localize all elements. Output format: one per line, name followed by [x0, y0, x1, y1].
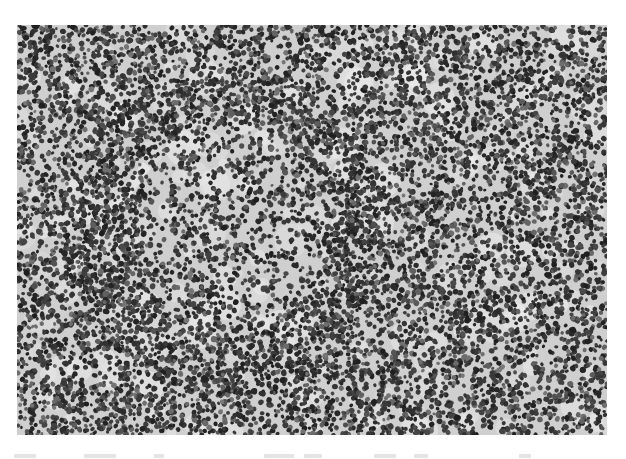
caption-text-fragment — [374, 454, 396, 458]
caption-text-fragment — [84, 454, 116, 458]
tissue-section — [17, 25, 607, 435]
caption-text-fragment — [154, 454, 164, 458]
caption-text-fragment — [414, 454, 428, 458]
figure-caption-cropped — [14, 452, 614, 459]
caption-text-fragment — [519, 454, 531, 458]
figure — [0, 0, 626, 459]
caption-text-fragment — [264, 454, 294, 458]
caption-text-fragment — [14, 454, 36, 458]
micrograph-image — [17, 25, 607, 435]
caption-text-fragment — [304, 454, 322, 458]
